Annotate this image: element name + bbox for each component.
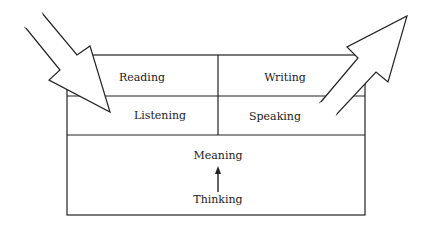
outgoing-arrow-icon: [320, 16, 407, 115]
cell-listening: Listening: [134, 109, 186, 122]
cell-speaking: Speaking: [249, 110, 301, 123]
core-meaning: Meaning: [193, 149, 242, 162]
cell-reading: Reading: [119, 71, 165, 84]
cell-writing: Writing: [264, 71, 306, 84]
core-thinking: Thinking: [193, 193, 242, 206]
up-arrowhead-icon: [215, 166, 221, 174]
